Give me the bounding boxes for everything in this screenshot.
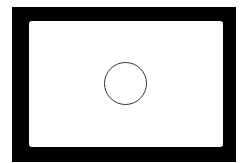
- focus-circle: [104, 62, 147, 105]
